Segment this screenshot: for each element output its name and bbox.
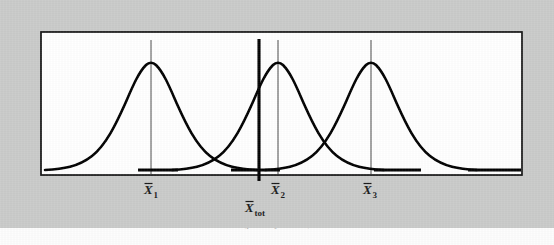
label-mean-3-base: X (362, 182, 372, 197)
label-mean-1-subscript: 1 (154, 190, 159, 200)
distribution-figure: X 1 X 2 X 3 X tot (0, 0, 554, 245)
label-mean-3-subscript: 3 (373, 190, 378, 200)
label-mean-2-subscript: 2 (281, 190, 286, 200)
label-grand-mean-base: X (244, 200, 254, 215)
label-grand-mean-subscript: tot (255, 208, 266, 218)
label-mean-2: X 2 (270, 182, 286, 200)
label-mean-2-base: X (270, 182, 280, 197)
cut-off-caption: (partially cut off) (0, 228, 554, 229)
label-grand-mean: X tot (244, 200, 265, 218)
plot-panel-background (41, 32, 522, 175)
label-mean-3: X 3 (362, 182, 378, 200)
figure-container: X 1 X 2 X 3 X tot (partially cut off) (0, 0, 554, 245)
label-mean-1: X 1 (143, 182, 159, 200)
label-mean-1-base: X (143, 182, 153, 197)
caption-strip: (partially cut off) (0, 228, 554, 245)
